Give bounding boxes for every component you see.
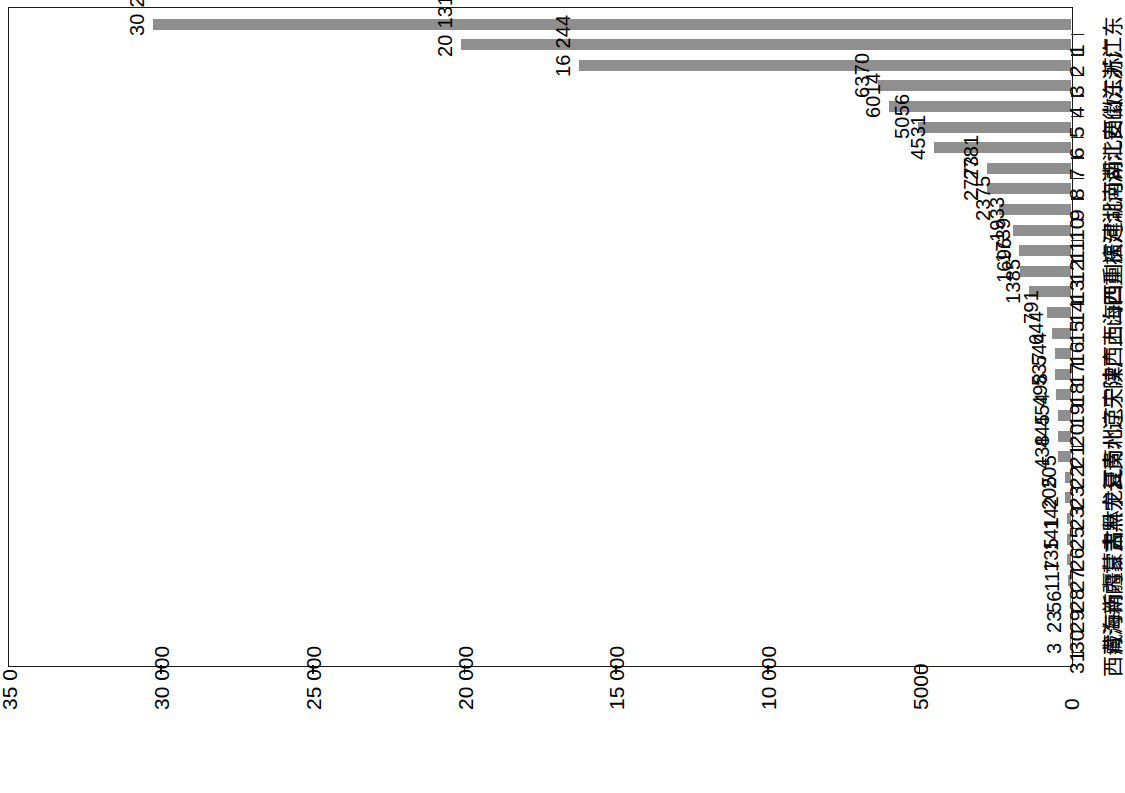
bar bbox=[579, 60, 1072, 71]
bar-value-label: 117 bbox=[1042, 560, 1062, 593]
bar-value-label: 30 261 bbox=[127, 0, 147, 36]
bar-value-label: 3 bbox=[1044, 643, 1064, 654]
value-axis-label: 25 000 bbox=[303, 646, 324, 710]
value-axis-label: 35 0 bbox=[0, 669, 20, 710]
bar bbox=[1020, 266, 1071, 277]
rank-label: 21 bbox=[1066, 445, 1087, 468]
bar bbox=[1019, 245, 1072, 256]
rank-label: 3 bbox=[1066, 86, 1087, 98]
rank-label: 10 bbox=[1066, 218, 1087, 241]
value-axis-label: 15 000 bbox=[606, 646, 627, 710]
bar bbox=[153, 19, 1071, 30]
bar bbox=[1013, 225, 1072, 236]
bar-value-label: 20 131 bbox=[435, 0, 455, 57]
bar bbox=[918, 122, 1071, 133]
rank-label: 7 bbox=[1066, 168, 1087, 180]
bar bbox=[987, 183, 1071, 194]
rank-label: 31 bbox=[1066, 651, 1087, 674]
bar bbox=[878, 80, 1071, 91]
bar-value-label: 6014 bbox=[863, 73, 883, 118]
rank-label: 5 bbox=[1066, 127, 1087, 139]
bar bbox=[999, 204, 1071, 215]
bar-value-label: 16 244 bbox=[553, 15, 573, 77]
rank-label: 1 bbox=[1066, 44, 1087, 56]
rank-label: 8 bbox=[1066, 189, 1087, 201]
rank-label: 4 bbox=[1066, 106, 1087, 118]
bar-value-label: 4531 bbox=[908, 114, 928, 159]
rank-label: 26 bbox=[1066, 548, 1087, 571]
bar-value-label: 23 bbox=[1044, 611, 1064, 634]
category-tick bbox=[1071, 34, 1084, 36]
value-axis-label: 30 000 bbox=[151, 646, 172, 710]
rank-label: 6 bbox=[1066, 147, 1087, 159]
bar bbox=[987, 163, 1071, 174]
category-label: 西藏 bbox=[1102, 633, 1125, 677]
bar bbox=[889, 101, 1071, 112]
value-axis-label: 20 000 bbox=[455, 646, 476, 710]
value-axis-label: 10 000 bbox=[758, 646, 779, 710]
bar bbox=[934, 142, 1071, 153]
value-axis-label: 0 bbox=[1061, 698, 1082, 710]
value-axis-label: 5000 bbox=[910, 663, 931, 710]
rank-label: 2 bbox=[1066, 65, 1087, 77]
rank-label: 16 bbox=[1066, 342, 1087, 365]
